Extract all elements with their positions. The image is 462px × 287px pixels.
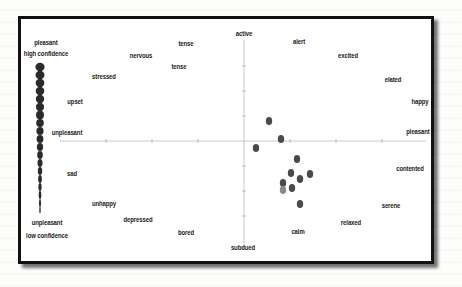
data-point bbox=[280, 186, 286, 194]
data-point bbox=[266, 117, 272, 125]
emotion-label: pleasant bbox=[406, 128, 429, 135]
emotion-label: upset bbox=[67, 98, 82, 105]
data-points bbox=[253, 117, 313, 208]
emotion-label: low confidence bbox=[26, 232, 68, 239]
emotion-label: subdued bbox=[231, 244, 255, 251]
data-point bbox=[297, 175, 303, 183]
confidence-scale-icon bbox=[35, 63, 44, 214]
emotion-label: serene bbox=[382, 202, 401, 209]
emotion-label: contented bbox=[396, 165, 424, 172]
data-point bbox=[278, 135, 284, 143]
emotion-label: excited bbox=[338, 52, 358, 59]
emotion-label: depressed bbox=[123, 216, 152, 223]
data-point bbox=[294, 155, 300, 163]
emotion-label: happy bbox=[411, 98, 428, 105]
emotion-label: calm bbox=[291, 228, 304, 235]
emotion-label: sad bbox=[67, 170, 77, 177]
emotion-label: relaxed bbox=[341, 219, 361, 226]
emotion-label: stressed bbox=[92, 73, 116, 80]
data-point bbox=[280, 179, 286, 187]
data-point bbox=[288, 169, 294, 177]
emotion-label: nervous bbox=[130, 52, 153, 59]
emotion-label: pleasant bbox=[34, 39, 57, 46]
emotion-label: tense bbox=[171, 63, 186, 70]
data-point bbox=[297, 200, 303, 208]
data-point bbox=[307, 170, 313, 178]
emotion-label: high confidence bbox=[24, 50, 68, 57]
emotion-label: alert bbox=[293, 38, 305, 45]
data-point bbox=[289, 184, 295, 192]
emotion-label: unpleasant bbox=[52, 129, 83, 136]
emotion-label: unhappy bbox=[92, 200, 116, 207]
emotion-label: tense bbox=[178, 40, 193, 47]
data-point bbox=[253, 144, 259, 152]
emotion-label: unpleasant bbox=[32, 219, 63, 226]
emotion-label: bored bbox=[178, 229, 194, 236]
emotion-label: active bbox=[236, 30, 252, 37]
emotion-label: elated bbox=[385, 76, 402, 83]
